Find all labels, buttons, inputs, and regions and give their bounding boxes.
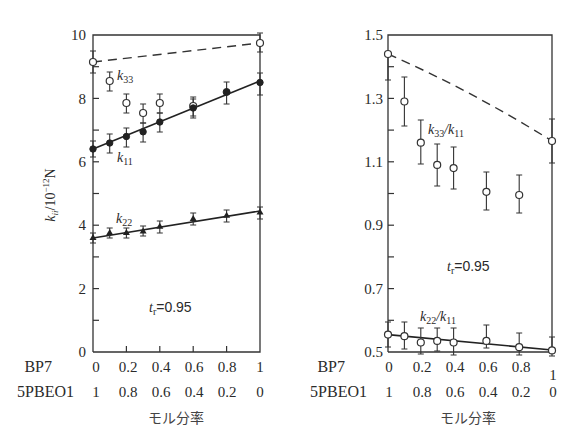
right-x-axis-label: モル分率 (440, 410, 496, 426)
figure: 0 2 4 6 8 10 kii/10−12N (0, 0, 570, 436)
svg-text:0.4: 0.4 (446, 359, 465, 375)
svg-text:0.6: 0.6 (479, 359, 498, 375)
svg-text:0.2: 0.2 (413, 359, 432, 375)
left-chart: 0 2 4 6 8 10 kii/10−12N (17, 27, 264, 426)
right-row1-name: BP7 (317, 358, 345, 375)
left-ytick-8: 8 (79, 91, 87, 107)
svg-text:1: 1 (549, 367, 557, 383)
k33-k11-label: k33/k11 (428, 122, 464, 139)
svg-text:0.8: 0.8 (119, 384, 138, 400)
right-plot-frame (388, 35, 552, 352)
right-ytick-0.5: 0.5 (364, 344, 383, 360)
svg-text:0.2: 0.2 (512, 384, 531, 400)
left-ytick-10: 10 (71, 27, 86, 43)
left-x-row1: 0 0.2 0.4 0.6 0.8 1 (92, 359, 264, 375)
left-ytick-4: 4 (79, 217, 87, 233)
left-tr-annotation: tr=0.95 (149, 299, 192, 317)
svg-text:0.2: 0.2 (119, 359, 138, 375)
svg-text:0: 0 (92, 359, 100, 375)
right-ytick-1.5: 1.5 (364, 27, 383, 43)
left-row2-name: 5PBEO1 (17, 383, 74, 400)
k33-k11-fit-curve (388, 54, 552, 141)
right-y-ticks (388, 67, 394, 321)
left-x-axis-label: モル分率 (148, 410, 204, 426)
svg-text:1: 1 (385, 384, 393, 400)
left-row1-name: BP7 (24, 358, 52, 375)
svg-text:0.2: 0.2 (218, 384, 237, 400)
right-ytick-0.9: 0.9 (364, 217, 383, 233)
svg-text:0: 0 (549, 384, 557, 400)
k22-k11-label: k22/k11 (420, 309, 456, 326)
svg-text:1: 1 (92, 384, 100, 400)
right-ytick-0.7: 0.7 (364, 281, 383, 297)
left-ytick-6: 6 (79, 154, 87, 170)
svg-text:0.8: 0.8 (512, 359, 531, 375)
k11-fit-line (93, 81, 260, 149)
left-x-row2: 1 0.8 0.6 0.4 0.2 0 (92, 384, 264, 400)
k22-k11-fit-line (388, 335, 552, 350)
left-ytick-2: 2 (79, 281, 87, 297)
svg-text:0.4: 0.4 (152, 359, 171, 375)
svg-text:0: 0 (385, 359, 393, 375)
svg-text:0.4: 0.4 (185, 384, 204, 400)
right-ytick-1.1: 1.1 (364, 154, 383, 170)
svg-text:0.8: 0.8 (413, 384, 432, 400)
svg-text:0.6: 0.6 (185, 359, 204, 375)
k33-markers (90, 40, 264, 117)
left-ytick-0: 0 (79, 344, 87, 360)
k33-fit-line (93, 43, 260, 62)
k11-label: k11 (117, 150, 133, 167)
svg-text:0.6: 0.6 (446, 384, 465, 400)
right-chart: 0.5 0.7 0.9 1.1 1.3 1.5 (310, 27, 557, 426)
right-ytick-1.3: 1.3 (364, 91, 383, 107)
k33-k11-markers (385, 51, 556, 199)
svg-text:0.8: 0.8 (218, 359, 237, 375)
right-x-row2: 1 0.8 0.6 0.4 0.2 0 (385, 384, 557, 400)
right-error-bars (385, 54, 555, 356)
svg-text:0.6: 0.6 (152, 384, 171, 400)
k22-label: k22 (116, 211, 132, 228)
svg-text:0: 0 (256, 384, 264, 400)
right-x-row1: 0 0.2 0.4 0.6 0.8 1 (385, 359, 557, 383)
right-tr-annotation: tr=0.95 (447, 258, 490, 276)
right-row2-name: 5PBEO1 (310, 383, 367, 400)
svg-text:1: 1 (256, 359, 264, 375)
left-y-axis-label: kii/10−12N (41, 168, 60, 221)
svg-text:0.4: 0.4 (479, 384, 498, 400)
k33-label: k33 (117, 68, 133, 85)
